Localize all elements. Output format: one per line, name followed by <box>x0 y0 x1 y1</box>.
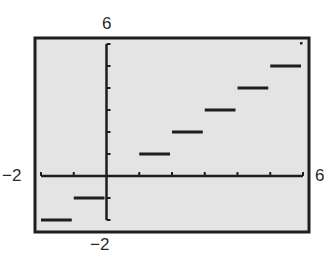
ymax-label: 6 <box>102 15 111 32</box>
xmax-label: 6 <box>315 167 324 184</box>
xmin-label: −2 <box>2 167 21 184</box>
cursor-dot <box>300 42 303 45</box>
screen-frame <box>35 38 309 232</box>
ymin-label: −2 <box>90 236 109 253</box>
